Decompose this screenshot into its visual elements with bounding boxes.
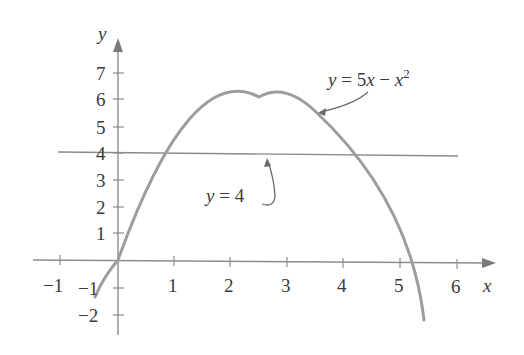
y-tick-label: 2 xyxy=(96,197,106,218)
y-tick-label: 1 xyxy=(96,223,106,244)
line-annotation: y = 4 xyxy=(204,158,275,206)
line-pointer-arrow xyxy=(262,162,275,205)
curve-pointer-arrow xyxy=(321,92,368,112)
y-tick-label: −2 xyxy=(78,305,98,326)
y-tick-label: 7 xyxy=(96,63,106,84)
x-axis-label: x xyxy=(482,275,492,296)
x-tick-label: 1 xyxy=(168,275,178,296)
y-tick-label: −1 xyxy=(78,278,98,299)
curve-label: y = 5x − x2 xyxy=(326,66,410,90)
curve-annotation: y = 5x − x2 xyxy=(318,66,410,116)
y-axis-arrow-icon xyxy=(113,38,123,52)
parabola-curve xyxy=(95,91,424,320)
y-tick-labels: 7 6 5 4 3 2 1 −1 −2 xyxy=(78,63,106,326)
x-tick-label: 6 xyxy=(451,276,461,297)
chart-canvas: −1 1 2 3 4 5 6 7 6 5 4 3 2 1 −1 −2 y x y… xyxy=(0,0,524,355)
y-axis-label: y xyxy=(96,23,107,44)
y-tick-label: 3 xyxy=(96,170,106,191)
line-label: y = 4 xyxy=(204,185,245,206)
x-axis-arrow-icon xyxy=(482,258,496,268)
y-tick-label: 5 xyxy=(96,117,106,138)
x-axis xyxy=(33,260,488,263)
y-tick-label: 6 xyxy=(96,89,106,110)
x-tick-label: 5 xyxy=(394,275,404,296)
x-tick-label: 2 xyxy=(224,275,234,296)
y-tick-label: 4 xyxy=(96,143,106,164)
x-tick-label: 4 xyxy=(337,275,347,296)
x-tick-label: 3 xyxy=(281,275,291,296)
arrowhead-icon xyxy=(264,158,271,167)
x-tick-label: −1 xyxy=(43,275,63,296)
